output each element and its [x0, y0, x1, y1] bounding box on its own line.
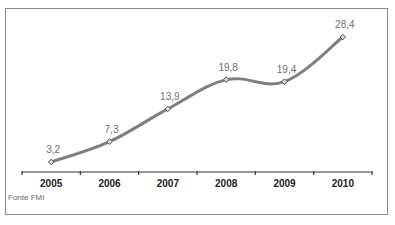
x-tick-label: 2008: [215, 178, 238, 189]
data-label: 3,2: [46, 144, 60, 155]
x-tick-label: 2010: [332, 178, 355, 189]
x-tick-label: 2009: [273, 178, 296, 189]
data-label: 19,4: [277, 64, 297, 75]
data-label: 7,3: [105, 124, 119, 135]
x-tick-label: 2005: [40, 178, 63, 189]
line-chart: 2005200620072008200920103,27,313,919,819…: [0, 0, 395, 225]
data-label: 28,4: [335, 19, 355, 30]
series-line: [51, 37, 343, 162]
source-note: Fonte FMI: [8, 193, 44, 202]
data-label: 13,9: [160, 91, 180, 102]
x-tick-label: 2007: [157, 178, 180, 189]
data-label: 19,8: [218, 62, 238, 73]
x-tick-label: 2006: [98, 178, 121, 189]
